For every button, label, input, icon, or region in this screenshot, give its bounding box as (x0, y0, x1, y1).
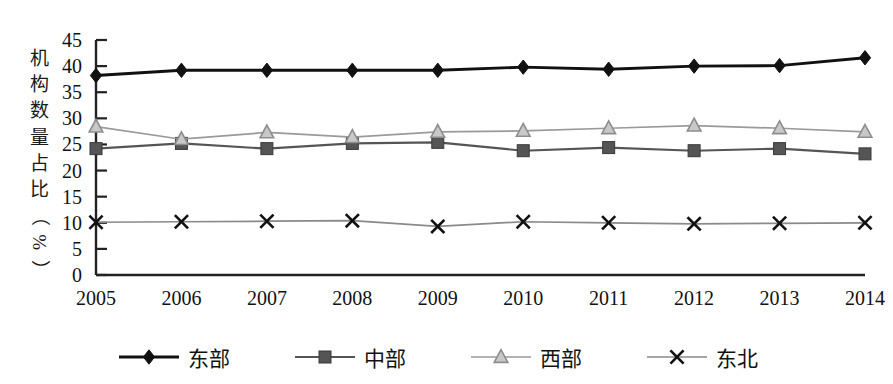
series-2 (90, 136, 871, 159)
data-point-square (319, 351, 331, 363)
legend-marker-diamond-icon (118, 346, 180, 368)
data-point-diamond (90, 68, 101, 82)
y-axis-tick-label: 40 (48, 56, 82, 76)
legend-item-diamond[interactable]: 东部 (118, 342, 230, 372)
data-point-triangle (89, 119, 103, 132)
legend-label: 东部 (188, 342, 230, 372)
x-axis-tick-label: 2009 (403, 288, 473, 308)
y-axis-tick-label: 5 (48, 239, 82, 259)
data-point-square (432, 136, 444, 148)
series-3 (89, 118, 872, 144)
data-point-square (90, 143, 102, 155)
data-point-triangle (431, 125, 445, 138)
data-point-square (859, 148, 871, 160)
data-point-triangle (260, 125, 274, 138)
data-point-square (603, 142, 615, 154)
x-axis-tick-label: 2010 (488, 288, 558, 308)
chart-legend: 东部中部西部东北 (118, 340, 758, 374)
x-axis-tick-label: 2007 (232, 288, 302, 308)
legend-label: 东北 (716, 342, 758, 372)
data-point-diamond (261, 63, 272, 77)
data-point-diamond (603, 62, 614, 76)
x-axis-tick-label: 2008 (317, 288, 387, 308)
chart-container: 机 构 数 量 占 比 （ % ） 051015202530354045 200… (0, 0, 893, 384)
y-axis-tick-label: 45 (48, 30, 82, 50)
data-point-triangle (494, 350, 508, 363)
y-axis-tick-label: 15 (48, 187, 82, 207)
data-point-triangle (773, 121, 787, 134)
y-axis-tick-label: 0 (48, 265, 82, 285)
legend-label: 中部 (364, 342, 406, 372)
legend-label: 西部 (540, 342, 582, 372)
data-point-triangle (687, 118, 701, 131)
data-point-diamond (774, 58, 785, 72)
data-point-diamond (143, 350, 154, 364)
legend-item-triangle[interactable]: 西部 (470, 342, 582, 372)
plot-area (0, 0, 893, 384)
y-axis-tick-label: 20 (48, 161, 82, 181)
legend-marker-square-icon (294, 346, 356, 368)
data-point-diamond (347, 63, 358, 77)
x-axis-tick-label: 2013 (745, 288, 815, 308)
data-point-diamond (518, 60, 529, 74)
data-point-diamond (432, 63, 443, 77)
legend-item-square[interactable]: 中部 (294, 342, 406, 372)
legend-marker-triangle-icon (470, 346, 532, 368)
y-axis-tick-label: 35 (48, 82, 82, 102)
legend-marker-x-icon (646, 346, 708, 368)
data-point-square (517, 145, 529, 157)
y-axis-tick-label: 30 (48, 108, 82, 128)
axes (96, 40, 865, 275)
data-series-layer (89, 51, 872, 233)
data-point-diamond (688, 59, 699, 73)
x-axis-tick-label: 2014 (830, 288, 893, 308)
y-axis-tick-label: 25 (48, 134, 82, 154)
series-1 (90, 51, 870, 83)
y-axis-tick-label: 10 (48, 213, 82, 233)
legend-item-x[interactable]: 东北 (646, 342, 758, 372)
data-point-diamond (176, 63, 187, 77)
data-point-diamond (859, 51, 870, 65)
x-axis-tick-label: 2005 (61, 288, 131, 308)
data-point-triangle (602, 121, 616, 134)
x-axis-tick-label: 2006 (146, 288, 216, 308)
series-4 (89, 214, 871, 233)
data-point-square (688, 145, 700, 157)
x-axis-tick-label: 2012 (659, 288, 729, 308)
x-axis-tick-label: 2011 (574, 288, 644, 308)
data-point-square (261, 143, 273, 155)
data-point-square (774, 143, 786, 155)
data-point-triangle (516, 123, 530, 136)
